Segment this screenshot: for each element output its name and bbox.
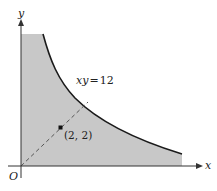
point-marker — [59, 126, 63, 130]
x-axis-arrow-icon — [196, 163, 203, 169]
x-axis-label: x — [205, 159, 212, 172]
point-label: (2, 2) — [64, 129, 92, 141]
origin-label: O — [9, 170, 18, 183]
curve-equation-label: xy=12 — [76, 74, 114, 87]
hyperbola-diagram: y x O xy=12 (2, 2) — [0, 0, 217, 191]
y-axis-label: y — [17, 7, 25, 20]
y-axis-arrow-icon — [18, 19, 24, 26]
